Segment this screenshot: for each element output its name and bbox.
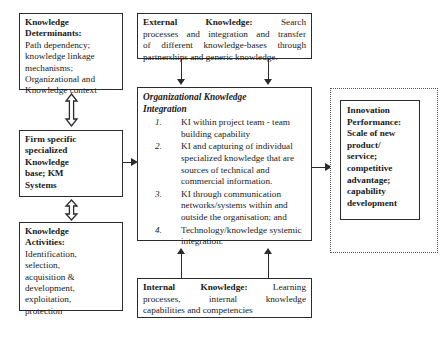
box-external-knowledge: ExternalKnowledge:Search processes and i… <box>137 13 312 59</box>
innovation-line-6: competitive <box>347 163 415 175</box>
innovation-line-1: Innovation <box>347 105 415 117</box>
firm-line-5: Systems <box>25 180 117 191</box>
innovation-line-8: capability <box>347 186 415 198</box>
connector-internal-central-left-line <box>181 254 182 278</box>
box-innovation-performance-outline: Innovation Performance: Scale of new pro… <box>330 88 438 253</box>
connector-external-central-right-head <box>264 79 272 85</box>
central-item-3: 3. KI through communication networks/sys… <box>143 189 306 224</box>
activities-line-8: protection <box>25 306 117 317</box>
central-item-2: 2. KI and capturing of individual specia… <box>143 141 306 187</box>
innovation-line-5: service; <box>347 151 415 163</box>
determinants-line-1: Knowledge <box>25 17 117 28</box>
central-item-1-text: KI within project team - team building c… <box>181 117 290 139</box>
connector-external-central-left-line <box>181 59 182 80</box>
external-line-4: partnerships and generic knowledge. <box>143 52 306 64</box>
central-item-3-text: KI through communication networks/system… <box>181 189 288 222</box>
activities-line-4: selection, <box>25 260 117 271</box>
activities-line-1: Knowledge <box>25 226 117 237</box>
box-organizational-knowledge-integration: Organizational Knowledge Integration 1. … <box>137 87 312 241</box>
determinants-line-5: mechanisms; <box>25 63 117 74</box>
activities-line-3: Identification, <box>25 249 117 260</box>
internal-label-2: Knowledge: <box>201 282 248 294</box>
external-line-2: processes and integration and transfer <box>143 29 306 41</box>
central-item-1: 1. KI within project team - team buildin… <box>143 117 306 140</box>
internal-line-1: InternalKnowledge:Learning <box>143 282 306 294</box>
external-line-1: ExternalKnowledge:Search <box>143 17 306 29</box>
innovation-line-9: development <box>347 198 415 210</box>
activities-line-5: acquisition & <box>25 272 117 283</box>
internal-line-2-a: processes, <box>143 294 181 306</box>
internal-line-2: processes,internalknowledge <box>143 294 306 306</box>
internal-line-2-c: knowledge <box>266 294 306 306</box>
external-line-3: of different knowledge-bases through <box>143 40 306 52</box>
internal-line-2-b: internal <box>209 294 237 306</box>
firm-line-1: Firm specific <box>25 134 117 145</box>
external-label: External <box>143 17 177 29</box>
connector-external-central-left-head <box>177 79 185 85</box>
central-item-4: 4. Technology/knowledge systemic integra… <box>143 225 306 248</box>
determinants-line-3: Path dependency; <box>25 40 117 51</box>
activities-line-6: development, <box>25 283 117 294</box>
central-heading-line-2: Integration <box>143 104 306 116</box>
internal-line-1-rest: Learning <box>273 282 306 294</box>
innovation-line-7: advantage; <box>347 175 415 187</box>
diagram-canvas: Knowledge Determinants: Path dependency;… <box>0 0 444 345</box>
connector-internal-central-left-head <box>177 248 185 254</box>
box-knowledge-determinants: Knowledge Determinants: Path dependency;… <box>19 13 123 90</box>
central-item-4-number: 4. <box>155 225 162 237</box>
connector-firm-central-head <box>131 158 138 166</box>
box-firm-specific-knowledge: Firm specific specialized Knowledge base… <box>19 130 123 197</box>
box-knowledge-activities: Knowledge Activities: Identification, se… <box>19 222 123 311</box>
connector-internal-central-right-head <box>264 248 272 254</box>
internal-label: Internal <box>143 282 175 294</box>
central-heading-line-1: Organizational Knowledge <box>143 92 306 104</box>
external-label-2: Knowledge: <box>206 17 253 29</box>
firm-line-4: base; KM <box>25 168 117 179</box>
innovation-line-4: product/ <box>347 140 415 152</box>
firm-line-2: specialized <box>25 145 117 156</box>
central-item-4-text: Technology/knowledge systemic integratio… <box>181 225 302 247</box>
firm-line-3: Knowledge <box>25 157 117 168</box>
external-line-1-rest: Search <box>281 17 306 29</box>
determinants-line-6: Organizational and <box>25 74 117 85</box>
central-item-2-text: KI and capturing of individual specializ… <box>181 141 294 186</box>
box-innovation-performance: Innovation Performance: Scale of new pro… <box>340 100 420 220</box>
double-arrow-firm-activities <box>64 199 79 221</box>
innovation-line-2: Performance: <box>347 117 415 129</box>
double-arrow-determinants-firm <box>64 93 79 127</box>
activities-line-2: Activities: <box>25 237 117 248</box>
activities-line-7: exploitation, <box>25 294 117 305</box>
box-internal-knowledge: InternalKnowledge:Learning processes,int… <box>137 278 312 318</box>
innovation-line-3: Scale of new <box>347 128 415 140</box>
determinants-line-4: knowledge linkage <box>25 51 117 62</box>
internal-line-3: capabilities and competencies <box>143 305 306 317</box>
connector-external-central-right-line <box>268 59 269 80</box>
determinants-line-2: Determinants: <box>25 28 117 39</box>
central-item-list: 1. KI within project team - team buildin… <box>143 117 306 248</box>
central-item-1-number: 1. <box>155 117 162 129</box>
central-item-2-number: 2. <box>155 141 162 153</box>
connector-internal-central-right-line <box>268 254 269 278</box>
central-item-3-number: 3. <box>155 189 162 201</box>
